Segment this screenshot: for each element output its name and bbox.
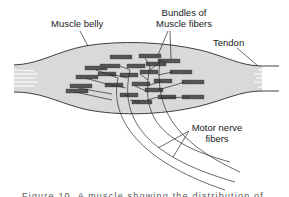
figure-caption: Figure 10. A muscle showing the distribu… [22,191,264,197]
muscle-illustration [0,0,289,197]
label-motor-line1: Motor nerve [187,123,247,133]
muscle-diagram: Muscle belly Bundles of Muscle fibers Te… [0,0,289,197]
label-tendon: Tendon [213,38,244,48]
label-bundles-line1: Bundles of [154,8,214,18]
label-motor-line2: fibers [187,134,247,144]
label-muscle-belly: Muscle belly [51,19,103,29]
label-bundles-line2: Muscle fibers [149,19,219,29]
